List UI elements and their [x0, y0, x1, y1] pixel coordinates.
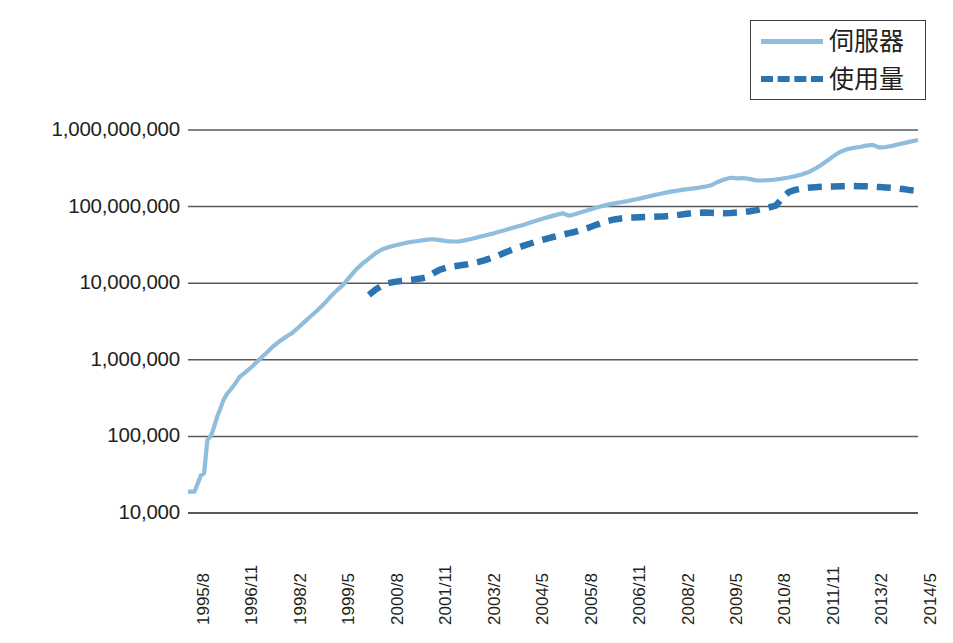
y-axis-tick-label: 1,000,000 — [91, 349, 180, 370]
x-axis-tick-label: 2005/8 — [583, 573, 600, 625]
x-axis-tick-label: 2013/2 — [873, 573, 890, 625]
x-axis-tick-label: 2011/11 — [825, 566, 842, 625]
x-axis-tick-label: 2006/11 — [631, 565, 648, 625]
legend-label-usage: 使用量 — [829, 67, 904, 92]
x-axis-tick-label: 1999/5 — [340, 573, 357, 625]
y-axis-tick-label: 100,000,000 — [68, 196, 180, 217]
legend-line-solid-icon — [761, 32, 823, 50]
x-axis-tick-label: 2008/2 — [680, 573, 697, 625]
legend-item-servers: 伺服器 — [751, 21, 925, 61]
y-axis-tick-label: 10,000 — [118, 502, 180, 523]
chart-legend: 伺服器 使用量 — [750, 20, 926, 100]
x-axis-tick-label: 1995/8 — [195, 573, 212, 625]
x-axis-tick-label: 1998/2 — [292, 573, 309, 625]
legend-label-servers: 伺服器 — [829, 29, 904, 54]
x-axis-tick-label: 2001/11 — [437, 565, 454, 625]
y-axis-tick-label: 100,000 — [107, 425, 180, 446]
legend-item-usage: 使用量 — [751, 59, 925, 99]
legend-line-dashed-icon — [761, 70, 823, 88]
x-axis-tick-label: 2000/8 — [389, 573, 406, 625]
x-axis-tick-label: 2004/5 — [534, 573, 551, 625]
x-axis-tick-label: 2003/2 — [486, 573, 503, 625]
series-line-servers — [188, 140, 918, 492]
x-axis-tick-label: 2010/8 — [776, 573, 793, 625]
y-axis-tick-label: 10,000,000 — [79, 272, 180, 293]
x-axis-tick-label: 2009/5 — [728, 573, 745, 625]
x-axis-tick-label: 2014/5 — [922, 573, 939, 625]
series-group — [188, 140, 918, 492]
x-axis-tick-label: 1996/11 — [243, 565, 260, 625]
y-axis-tick-label: 1,000,000,000 — [52, 119, 181, 140]
chart-container: 1,000,000,000100,000,00010,000,0001,000,… — [0, 0, 953, 643]
